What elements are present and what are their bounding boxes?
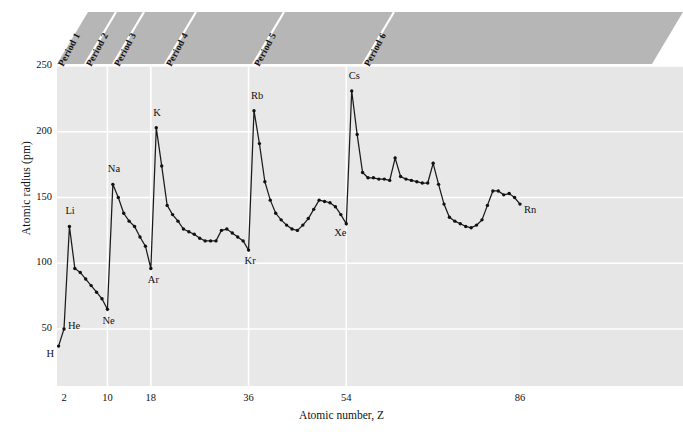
data-point: [296, 229, 299, 232]
data-point: [502, 193, 505, 196]
x-tick-86: 86: [505, 392, 535, 403]
data-point: [361, 171, 364, 174]
data-series-layer: [0, 0, 683, 432]
data-point: [258, 142, 261, 145]
data-point: [106, 308, 109, 311]
data-point: [279, 218, 282, 221]
data-point: [122, 212, 125, 215]
x-tick-18: 18: [136, 392, 166, 403]
data-point: [252, 109, 255, 112]
data-point: [269, 198, 272, 201]
data-point: [274, 212, 277, 215]
data-point: [111, 183, 114, 186]
data-point: [366, 176, 369, 179]
data-point: [84, 277, 87, 280]
data-point: [214, 239, 217, 242]
data-point: [79, 271, 82, 274]
data-point: [301, 223, 304, 226]
data-point: [497, 189, 500, 192]
data-point: [100, 297, 103, 300]
data-point: [415, 180, 418, 183]
data-point: [285, 223, 288, 226]
data-point: [144, 244, 147, 247]
point-label-rb: Rb: [251, 90, 263, 101]
data-point: [426, 181, 429, 184]
data-point: [323, 200, 326, 203]
data-point: [404, 177, 407, 180]
data-point: [464, 225, 467, 228]
point-label-rn: Rn: [524, 204, 536, 215]
x-axis-title: Atomic number, Z: [0, 409, 683, 421]
data-point: [133, 225, 136, 228]
data-point: [241, 239, 244, 242]
data-point: [68, 225, 71, 228]
point-label-k: K: [153, 107, 161, 118]
data-point: [155, 126, 158, 129]
atomic-radius-figure: 50100150200250 21018365486 HHeLiNeNaArKK…: [0, 0, 683, 432]
data-point: [469, 226, 472, 229]
data-point: [518, 202, 521, 205]
data-point: [171, 213, 174, 216]
data-point: [372, 176, 375, 179]
data-point: [62, 327, 65, 330]
data-point: [95, 290, 98, 293]
point-label-xe: Xe: [334, 227, 346, 238]
data-point: [312, 208, 315, 211]
data-point: [317, 198, 320, 201]
data-point: [442, 202, 445, 205]
data-point: [459, 222, 462, 225]
data-point: [328, 201, 331, 204]
data-point: [345, 222, 348, 225]
data-point: [193, 233, 196, 236]
data-point: [307, 217, 310, 220]
data-point: [431, 162, 434, 165]
point-label-ar: Ar: [148, 274, 159, 285]
data-point: [89, 284, 92, 287]
data-point: [73, 267, 76, 270]
data-point: [57, 344, 60, 347]
data-point: [475, 223, 478, 226]
data-point: [165, 204, 168, 207]
data-point: [448, 216, 451, 219]
data-point: [236, 235, 239, 238]
data-point: [383, 177, 386, 180]
y-tick-250: 250: [22, 59, 52, 70]
data-point: [410, 179, 413, 182]
data-point: [339, 213, 342, 216]
data-point: [149, 267, 152, 270]
point-label-he: He: [68, 320, 80, 331]
data-point: [507, 192, 510, 195]
data-point: [182, 227, 185, 230]
data-point: [480, 218, 483, 221]
data-point: [491, 189, 494, 192]
data-point: [355, 133, 358, 136]
point-label-cs: Cs: [349, 70, 360, 81]
data-point: [263, 180, 266, 183]
data-point: [393, 156, 396, 159]
data-point: [388, 179, 391, 182]
y-axis-title: Atomic radius (pm): [20, 118, 32, 258]
data-point: [187, 230, 190, 233]
data-point: [225, 227, 228, 230]
data-point: [247, 248, 250, 251]
data-point: [513, 196, 516, 199]
data-point: [421, 181, 424, 184]
atomic-radius-line: [59, 91, 520, 346]
x-tick-2: 2: [49, 392, 79, 403]
y-tick-50: 50: [22, 322, 52, 333]
data-point: [350, 89, 353, 92]
data-point: [117, 196, 120, 199]
data-point: [127, 219, 130, 222]
data-point: [453, 219, 456, 222]
data-point: [209, 239, 212, 242]
x-tick-36: 36: [234, 392, 264, 403]
data-point: [198, 237, 201, 240]
data-point: [437, 183, 440, 186]
data-point: [334, 205, 337, 208]
data-point: [220, 229, 223, 232]
data-point: [399, 175, 402, 178]
point-label-ne: Ne: [102, 315, 114, 326]
data-point: [138, 235, 141, 238]
data-point: [176, 219, 179, 222]
point-label-h: H: [47, 348, 55, 359]
